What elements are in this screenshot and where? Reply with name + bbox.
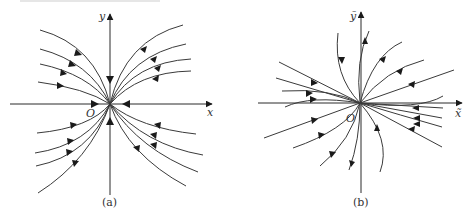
x-label-b: x̃ <box>455 107 462 120</box>
trajectories-lower-right-b <box>360 103 443 172</box>
origin-label-b: O <box>346 112 355 125</box>
panel-b: ỹ x̃ O (b) <box>258 10 462 209</box>
caption-b: (b) <box>353 196 369 209</box>
trajectories-lower-left-a <box>35 104 110 193</box>
trajectories-upper-right-b <box>359 31 454 105</box>
trajectories-upper-left-b <box>276 33 360 107</box>
arrow-y-pos-a <box>106 117 114 125</box>
trajectories-upper-right-a <box>110 25 191 104</box>
x-label-a: x <box>207 106 214 119</box>
arrow-x-pos-a <box>122 100 130 108</box>
arrow-y-neg-a <box>106 76 114 84</box>
origin-label-a: O <box>86 107 95 120</box>
panel-a: y x O (a) <box>10 10 214 209</box>
trajectories-lower-right-a <box>110 104 203 186</box>
cropped-top-text <box>20 0 160 2</box>
y-label-b: ỹ <box>349 10 357 23</box>
trajectories-upper-left-a <box>38 30 110 104</box>
phase-portrait-figure: y x O (a) <box>0 0 470 219</box>
caption-a: (a) <box>102 196 117 209</box>
y-label-a: y <box>98 10 106 23</box>
